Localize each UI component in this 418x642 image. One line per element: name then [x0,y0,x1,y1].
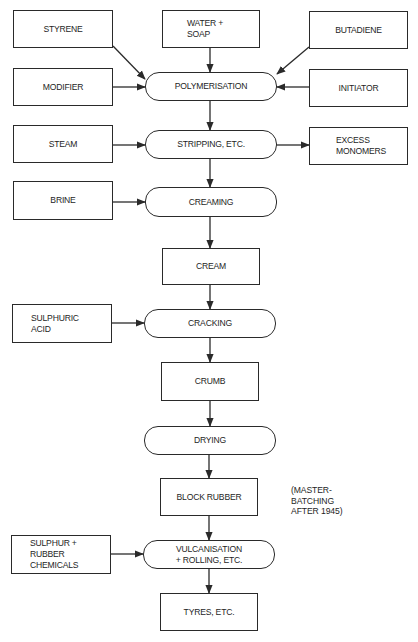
input-steam-label: STEAM [49,139,78,150]
input-modifier: MODIFIER [13,68,113,106]
process-stripping: STRIPPING, ETC. [145,130,277,159]
product-cream-label: CREAM [196,261,226,272]
input-butadiene: BUTADIENE [309,11,408,49]
product-block-rubber: BLOCK RUBBER [160,478,258,516]
process-vulcanisation-label: VULCANISATION + ROLLING, ETC. [176,544,242,566]
product-block-rubber-label: BLOCK RUBBER [177,492,242,503]
process-cracking: CRACKING [144,309,276,338]
arrow-styrene-to-polymerisation [113,46,145,79]
process-creaming: CREAMING [145,187,277,217]
product-tyres-label: TYRES, ETC. [184,607,235,618]
input-sulphuric-acid-label: SULPHURIC ACID [31,313,79,335]
output-excess-monomers: EXCESS MONOMERS [309,127,408,165]
process-polymerisation: POLYMERISATION [145,72,277,101]
process-drying: DRYING [144,426,276,455]
input-sulphuric-acid: SULPHURIC ACID [12,304,112,343]
product-crumb-label: CRUMB [195,376,226,387]
input-initiator: INITIATOR [309,69,408,107]
output-excess-monomers-label: EXCESS MONOMERS [336,135,386,157]
input-water-soap-label: WATER + SOAP [187,18,223,40]
input-water-soap: WATER + SOAP [162,10,260,48]
synthetic-rubber-process-flowchart: STYRENE WATER + SOAP BUTADIENE MODIFIER … [0,0,418,642]
product-cream: CREAM [162,248,260,285]
input-initiator-label: INITIATOR [339,83,379,94]
arrow-butadiene-to-polymerisation [277,47,309,74]
input-brine: BRINE [13,181,113,220]
input-butadiene-label: BUTADIENE [335,25,382,36]
annotation-master-batching: (MASTER- BATCHING AFTER 1945) [291,485,342,517]
input-brine-label: BRINE [50,195,75,206]
product-crumb: CRUMB [161,362,259,401]
input-styrene-label: STYRENE [43,24,82,35]
process-creaming-label: CREAMING [189,197,234,208]
input-modifier-label: MODIFIER [43,82,83,93]
product-tyres: TYRES, ETC. [160,593,258,631]
process-polymerisation-label: POLYMERISATION [175,81,247,92]
input-styrene: STYRENE [13,10,113,48]
input-sulphur-rubber-chemicals: SULPHUR + RUBBER CHEMICALS [11,535,111,574]
process-stripping-label: STRIPPING, ETC. [177,139,245,150]
input-sulphur-rubber-chemicals-label: SULPHUR + RUBBER CHEMICALS [30,538,78,571]
process-drying-label: DRYING [194,435,226,446]
process-cracking-label: CRACKING [188,318,232,329]
process-vulcanisation: VULCANISATION + ROLLING, ETC. [143,540,275,569]
input-steam: STEAM [13,125,113,163]
